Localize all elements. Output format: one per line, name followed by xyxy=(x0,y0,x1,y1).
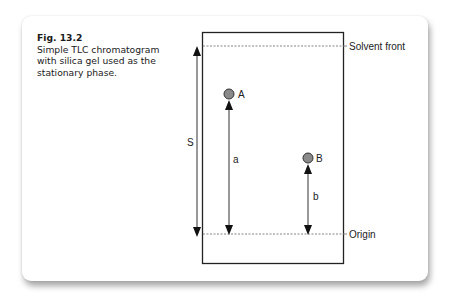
arrowhead-down-icon xyxy=(193,227,201,237)
distance-a-label: a xyxy=(233,154,239,165)
spot-b-label: B xyxy=(316,153,323,164)
arrowhead-up-icon xyxy=(193,46,201,56)
arrowhead-up-icon xyxy=(304,164,312,174)
tlc-plate xyxy=(203,33,344,264)
solvent-front-label: Solvent front xyxy=(349,41,405,52)
distance-b-label: b xyxy=(313,191,319,202)
arrowhead-down-icon xyxy=(225,225,233,235)
tlc-diagram: Solvent front Origin S A a B b xyxy=(0,0,450,298)
distance-s-label: S xyxy=(187,137,194,148)
arrowhead-down-icon xyxy=(304,225,312,235)
spot-b xyxy=(303,153,313,163)
arrowhead-up-icon xyxy=(225,100,233,110)
spot-a-label: A xyxy=(238,89,245,100)
spot-a xyxy=(224,89,234,99)
origin-label: Origin xyxy=(349,229,376,240)
